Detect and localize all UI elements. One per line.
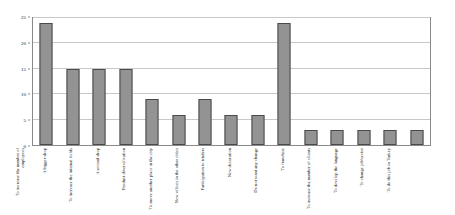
y-tick-mark — [28, 42, 30, 43]
x-tick-label: To increase the internal fields — [68, 148, 73, 210]
x-tick-label: Participation to tenders — [200, 148, 205, 210]
y-tick-label: 10 — [21, 92, 26, 97]
x-tick-label: New decoration — [227, 148, 232, 210]
x-label-slot: To do this job in Turkey — [404, 148, 430, 215]
x-tick-label: A bigger shop — [42, 148, 47, 210]
x-axis-labels: To increase the number of employeesA big… — [33, 148, 430, 215]
bar[interactable] — [278, 23, 291, 145]
bar[interactable] — [119, 69, 132, 145]
y-tick-mark — [28, 94, 30, 95]
bar-slot — [404, 18, 430, 145]
y-tick-label: 25 — [21, 15, 26, 20]
bar-slot — [112, 18, 138, 145]
bar-slot — [351, 18, 377, 145]
y-tick-mark — [28, 17, 30, 18]
y-axis: 0510152025 — [0, 17, 30, 146]
bar[interactable] — [199, 99, 212, 145]
x-tick-label: New offices in the other cities — [174, 148, 179, 210]
x-tick-label: To move another place in the city — [148, 148, 153, 210]
bar-slot — [324, 18, 350, 145]
bar[interactable] — [331, 130, 344, 145]
bars-container — [33, 18, 430, 145]
x-tick-label: To change job/sector — [359, 148, 364, 210]
bar-slot — [377, 18, 403, 145]
bar[interactable] — [251, 115, 264, 145]
y-tick-label: 5 — [24, 118, 27, 123]
bar[interactable] — [40, 23, 53, 145]
bar-slot — [33, 18, 59, 145]
x-tick-label: To do this job in Turkey — [386, 148, 391, 210]
bar-slot — [245, 18, 271, 145]
bar[interactable] — [357, 130, 370, 145]
bar[interactable] — [93, 69, 106, 145]
bar-slot — [59, 18, 85, 145]
bar-slot — [218, 18, 244, 145]
bar[interactable] — [384, 130, 397, 145]
x-tick-label: To increase the number of clients — [306, 148, 311, 210]
x-tick-label: Product diversification — [121, 148, 126, 210]
bar-slot — [139, 18, 165, 145]
x-tick-label: To develop the language — [333, 148, 338, 210]
y-tick-label: 20 — [21, 40, 26, 45]
y-tick-mark — [28, 146, 30, 147]
bar-slot — [192, 18, 218, 145]
y-tick-label: 15 — [21, 66, 26, 71]
bar-chart: 0510152025 To increase the number of emp… — [0, 0, 455, 215]
x-tick-label: A second shop — [95, 148, 100, 210]
bar-slot — [165, 18, 191, 145]
bar[interactable] — [225, 115, 238, 145]
bar[interactable] — [410, 130, 423, 145]
bar-slot — [86, 18, 112, 145]
bar-slot — [298, 18, 324, 145]
y-tick-mark — [28, 68, 30, 69]
x-tick-label: To increase the number of employees — [15, 148, 26, 210]
x-tick-label: Do not want any change — [253, 148, 258, 210]
bar[interactable] — [172, 115, 185, 145]
bar[interactable] — [66, 69, 79, 145]
bar[interactable] — [146, 99, 159, 145]
x-tick-label: To franchise — [280, 148, 285, 210]
bar-slot — [271, 18, 297, 145]
y-tick-mark — [28, 120, 30, 121]
bar[interactable] — [304, 130, 317, 145]
